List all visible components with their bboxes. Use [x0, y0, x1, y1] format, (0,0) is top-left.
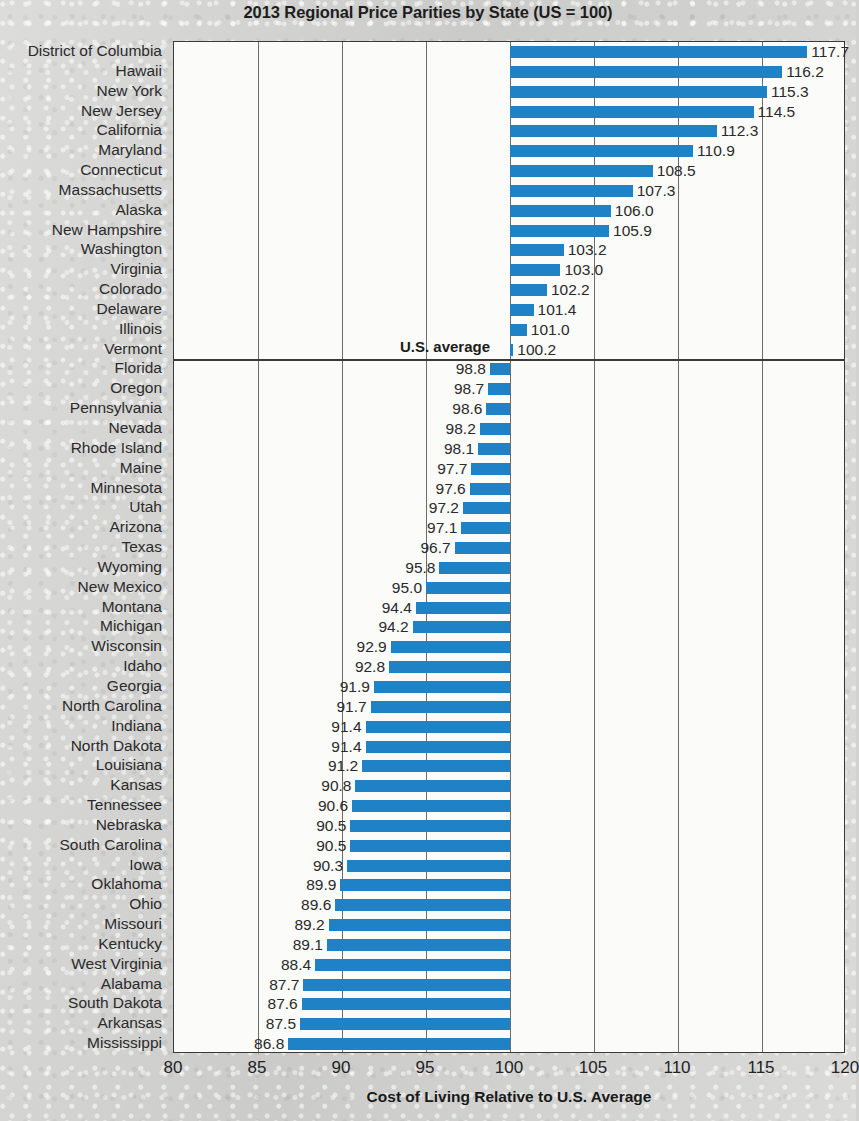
- category-label-hawaii: Hawaii: [115, 61, 162, 81]
- bar: [439, 562, 510, 574]
- bar-value-label: 110.9: [697, 141, 735, 161]
- bar: [510, 86, 767, 98]
- category-label-indiana: Indiana: [111, 716, 162, 736]
- bar: [303, 979, 510, 991]
- bar-row: 114.5: [174, 102, 846, 122]
- bar-value-label: 90.5: [316, 836, 346, 856]
- category-label-new-hampshire: New Hampshire: [52, 220, 162, 240]
- bar-row: 92.9: [174, 637, 846, 657]
- category-label-wyoming: Wyoming: [98, 557, 162, 577]
- bar: [471, 463, 510, 475]
- bar-value-label: 105.9: [613, 221, 652, 241]
- bar-value-label: 90.6: [318, 796, 348, 816]
- x-axis-title: Cost of Living Relative to U.S. Average: [173, 1088, 845, 1106]
- bar-value-label: 89.9: [306, 875, 336, 895]
- bar: [510, 304, 534, 316]
- bar: [463, 502, 510, 514]
- bar: [461, 522, 510, 534]
- bar-row: 108.5: [174, 161, 846, 181]
- bar: [510, 264, 560, 276]
- x-tick-105: 105: [579, 1058, 607, 1078]
- category-label-virginia: Virginia: [111, 259, 162, 279]
- category-label-oregon: Oregon: [110, 378, 162, 398]
- category-label-connecticut: Connecticut: [80, 160, 162, 180]
- bar: [340, 879, 510, 891]
- category-label-kansas: Kansas: [110, 775, 162, 795]
- bar-value-label: 101.0: [531, 320, 570, 340]
- category-label-maine: Maine: [120, 458, 162, 478]
- bar-value-label: 101.4: [538, 300, 577, 320]
- bar: [374, 681, 510, 693]
- bar: [302, 998, 510, 1010]
- category-label-south-dakota: South Dakota: [68, 993, 162, 1013]
- bar-value-label: 90.5: [316, 816, 346, 836]
- bar: [510, 244, 564, 256]
- bar-value-label: 117.7: [811, 42, 849, 62]
- bar-row: 101.0: [174, 320, 846, 340]
- bar: [335, 899, 510, 911]
- bar-value-label: 95.8: [405, 558, 435, 578]
- bar: [366, 741, 510, 753]
- bar-row: 87.7: [174, 975, 846, 995]
- bar-value-label: 98.2: [446, 419, 476, 439]
- bar-value-label: 87.6: [268, 994, 298, 1014]
- bar-row: 91.4: [174, 717, 846, 737]
- category-label-alaska: Alaska: [115, 200, 162, 220]
- bar-value-label: 96.7: [420, 538, 450, 558]
- bar-row: 91.7: [174, 697, 846, 717]
- bar-row: 110.9: [174, 141, 846, 161]
- category-label-rhode-island: Rhode Island: [71, 438, 162, 458]
- bar-row: 94.2: [174, 617, 846, 637]
- bar-row: 97.7: [174, 459, 846, 479]
- bar: [510, 125, 717, 137]
- plot-area: 117.7116.2115.3114.5112.3110.9108.5107.3…: [173, 41, 845, 1053]
- bar: [478, 443, 510, 455]
- bar: [355, 780, 510, 792]
- category-label-nevada: Nevada: [109, 418, 162, 438]
- bar-row: 112.3: [174, 121, 846, 141]
- bar-row: 96.7: [174, 538, 846, 558]
- bar-row: 92.8: [174, 657, 846, 677]
- bar-value-label: 112.3: [721, 121, 759, 141]
- bar: [480, 423, 510, 435]
- bar-row: 100.2: [174, 340, 846, 360]
- bar: [510, 344, 513, 356]
- bar-value-label: 97.1: [427, 518, 457, 538]
- bar-row: 87.5: [174, 1014, 846, 1034]
- bar: [350, 820, 510, 832]
- bar: [391, 641, 510, 653]
- bar: [327, 939, 510, 951]
- bar: [510, 145, 693, 157]
- bar-value-label: 103.2: [568, 240, 607, 260]
- category-label-california: California: [97, 120, 162, 140]
- bar-row: 98.6: [174, 399, 846, 419]
- bar: [510, 165, 653, 177]
- x-tick-100: 100: [495, 1058, 523, 1078]
- category-label-oklahoma: Oklahoma: [91, 874, 162, 894]
- category-label-new-mexico: New Mexico: [78, 577, 162, 597]
- bar-value-label: 89.2: [294, 915, 324, 935]
- bar: [510, 46, 807, 58]
- bar-row: 91.4: [174, 737, 846, 757]
- x-tick-80: 80: [164, 1058, 183, 1078]
- category-label-west-virginia: West Virginia: [71, 954, 162, 974]
- category-label-arkansas: Arkansas: [97, 1013, 162, 1033]
- bar-row: 94.4: [174, 598, 846, 618]
- bar: [486, 403, 510, 415]
- bar-value-label: 94.4: [382, 598, 412, 618]
- bar-value-label: 91.4: [331, 717, 361, 737]
- bar: [510, 324, 527, 336]
- category-label-minnesota: Minnesota: [90, 478, 162, 498]
- bar: [371, 701, 510, 713]
- category-label-district-of-columbia: District of Columbia: [28, 41, 162, 61]
- bar-value-label: 91.7: [336, 697, 366, 717]
- bar: [510, 205, 611, 217]
- category-label-kentucky: Kentucky: [98, 934, 162, 954]
- bar: [389, 661, 510, 673]
- category-label-nebraska: Nebraska: [96, 815, 162, 835]
- bar: [510, 106, 754, 118]
- category-label-idaho: Idaho: [123, 656, 162, 676]
- category-label-michigan: Michigan: [100, 616, 162, 636]
- bar-value-label: 88.4: [281, 955, 311, 975]
